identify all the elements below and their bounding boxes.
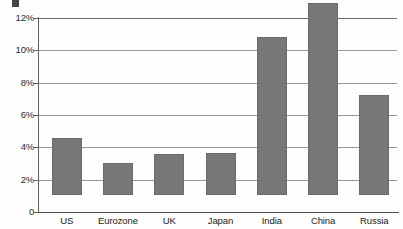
x-axis-label-japan: Japan: [195, 214, 246, 227]
y-tick-4%: [33, 147, 39, 148]
y-tick-10%: [33, 50, 39, 51]
x-axis-label-china: China: [297, 214, 348, 227]
bar-eurozone: [103, 163, 133, 195]
bar-japan: [206, 153, 236, 195]
y-axis-label-6%: 6%: [0, 110, 34, 120]
x-axis-tick-labels: USEurozoneUKJapanIndiaChinaRussia: [38, 214, 397, 229]
bar-us: [52, 138, 82, 195]
y-axis-label-12%: 12%: [0, 13, 34, 23]
y-tick-8%: [33, 83, 39, 84]
y-axis-tick-labels: 02%4%6%8%10%12%: [0, 0, 34, 229]
bar-chart: 02%4%6%8%10%12% USEurozoneUKJapanIndiaCh…: [0, 0, 403, 229]
y-tick-12%: [33, 18, 39, 19]
y-axis-label-2%: 2%: [0, 175, 34, 185]
y-axis-label-0: 0: [0, 207, 34, 217]
y-axis-label-8%: 8%: [0, 78, 34, 88]
x-axis-label-eurozone: Eurozone: [92, 214, 143, 227]
y-tick-6%: [33, 115, 39, 116]
y-tick-2%: [33, 180, 39, 181]
bar-india: [257, 37, 287, 195]
x-axis-line: [34, 212, 399, 213]
y-tick-0: [33, 212, 39, 213]
x-axis-label-india: India: [246, 214, 297, 227]
bar-uk: [154, 154, 184, 195]
bar-china: [308, 3, 338, 195]
y-axis-label-10%: 10%: [0, 45, 34, 55]
x-axis-label-us: US: [41, 214, 92, 227]
bar-series: [38, 0, 397, 212]
x-axis-label-russia: Russia: [349, 214, 400, 227]
y-axis-label-4%: 4%: [0, 142, 34, 152]
x-axis-label-uk: UK: [144, 214, 195, 227]
bar-russia: [359, 95, 389, 195]
